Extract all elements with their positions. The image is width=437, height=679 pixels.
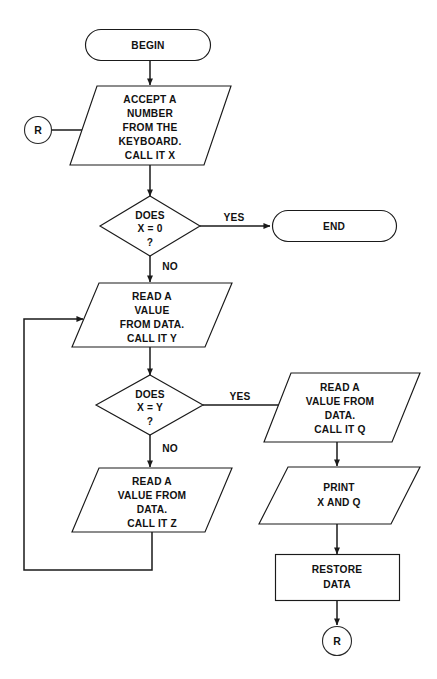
- node-accept-number[interactable]: ACCEPT A NUMBER FROM THE KEYBOARD. CALL …: [70, 86, 231, 165]
- print-parallelogram-shape: [259, 467, 420, 524]
- decision-x0-line-2: X = 0: [137, 223, 162, 234]
- node-begin[interactable]: BEGIN: [86, 30, 211, 61]
- node-restore-data[interactable]: RESTORE DATA: [276, 555, 400, 601]
- read-y-line-2: VALUE: [135, 305, 170, 316]
- read-z-line-1: READ A: [132, 476, 172, 487]
- node-connector-in[interactable]: R: [25, 117, 52, 144]
- read-z-line-4: CALL IT Z: [127, 518, 177, 529]
- read-q-line-2: VALUE FROM: [306, 396, 375, 407]
- node-end[interactable]: END: [273, 211, 397, 242]
- decision-xy-line-2: X = Y: [137, 402, 163, 413]
- read-q-line-3: DATA.: [325, 410, 356, 421]
- flowchart-canvas: BEGIN R ACCEPT A NUMBER FROM THE KEYBOAR…: [0, 0, 437, 679]
- decision-xy-line-3: ?: [147, 416, 153, 427]
- read-y-line-4: CALL IT Y: [127, 333, 177, 344]
- decision-x0-line-1: DOES: [135, 210, 165, 221]
- accept-number-line-2: NUMBER: [127, 108, 173, 119]
- edge-label-x0-yes: YES: [224, 212, 245, 223]
- read-q-line-1: READ A: [320, 382, 360, 393]
- read-y-line-1: READ A: [132, 291, 172, 302]
- edge-label-x0-no: NO: [162, 261, 178, 272]
- node-read-value-y[interactable]: READ A VALUE FROM DATA. CALL IT Y: [72, 283, 232, 347]
- restore-data-line-2: DATA: [323, 579, 351, 590]
- node-read-value-z[interactable]: READ A VALUE FROM DATA. CALL IT Z: [72, 468, 232, 532]
- node-print-x-and-q[interactable]: PRINT X AND Q: [259, 467, 420, 524]
- decision-xy-line-1: DOES: [135, 389, 165, 400]
- flowchart-svg: BEGIN R ACCEPT A NUMBER FROM THE KEYBOAR…: [0, 0, 437, 679]
- read-y-line-3: FROM DATA.: [120, 319, 184, 330]
- connector-in-label: R: [34, 124, 42, 136]
- decision-x0-line-3: ?: [147, 237, 153, 248]
- node-connector-out[interactable]: R: [323, 627, 352, 656]
- restore-data-line-1: RESTORE: [312, 564, 362, 575]
- print-line-2: X AND Q: [317, 497, 360, 508]
- node-read-value-q[interactable]: READ A VALUE FROM DATA. CALL IT Q: [264, 373, 420, 442]
- read-z-line-3: DATA.: [137, 504, 168, 515]
- print-line-1: PRINT: [323, 482, 355, 493]
- edge-label-xy-yes: YES: [230, 391, 251, 402]
- accept-number-line-4: KEYBOARD.: [119, 136, 182, 147]
- end-label: END: [323, 221, 345, 232]
- edge-label-xy-no: NO: [162, 443, 178, 454]
- node-decision-x-equals-zero[interactable]: DOES X = 0 ?: [100, 196, 200, 256]
- accept-number-line-1: ACCEPT A: [123, 94, 177, 105]
- begin-label: BEGIN: [131, 40, 164, 51]
- node-decision-x-equals-y[interactable]: DOES X = Y ?: [96, 375, 203, 435]
- restore-data-rect-shape: [276, 555, 400, 601]
- accept-number-line-5: CALL IT X: [125, 150, 175, 161]
- read-q-line-4: CALL IT Q: [314, 424, 365, 435]
- read-z-line-2: VALUE FROM: [118, 490, 187, 501]
- connector-out-label: R: [333, 635, 341, 647]
- accept-number-line-3: FROM THE: [123, 122, 178, 133]
